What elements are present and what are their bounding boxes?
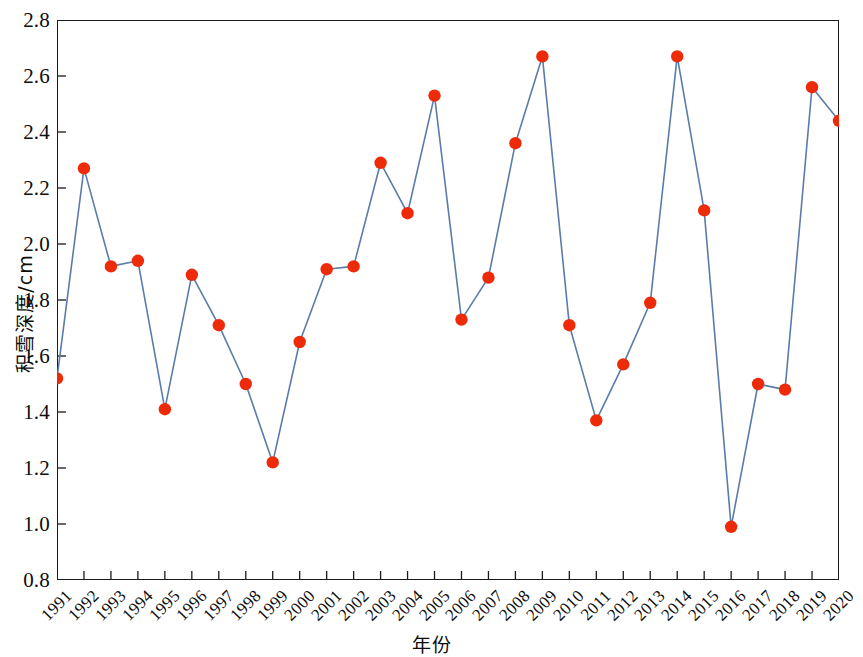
x-axis-tick-labels: 1991199219931994199519961997199819992000… bbox=[0, 0, 863, 657]
snow-depth-line-chart: 0.81.01.21.41.61.82.02.22.42.62.8 积雪深度/c… bbox=[0, 0, 863, 657]
x-axis-title: 年份 bbox=[0, 630, 863, 657]
x-tick-label: 2020 bbox=[820, 587, 857, 624]
